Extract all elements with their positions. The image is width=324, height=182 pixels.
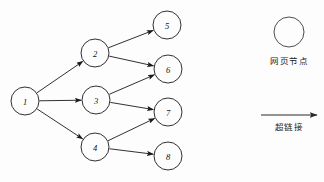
edge-4-to-7 <box>108 118 155 140</box>
diagram-canvas: 12345678 网页节点 超链接 <box>0 0 324 182</box>
node-3[interactable]: 3 <box>82 86 110 114</box>
legend-node-label: 网页节点 <box>270 56 308 66</box>
node-label-3: 3 <box>93 96 98 106</box>
legend-node-symbol: 网页节点 <box>270 17 308 66</box>
edge-4-to-8 <box>109 149 153 154</box>
edge-2-to-6 <box>109 56 153 66</box>
legend-edge-symbol: 超链接 <box>261 115 317 132</box>
nodes-layer: 12345678 <box>11 11 182 170</box>
legend-hyperlink-label: 超链接 <box>275 122 304 132</box>
node-label-5: 5 <box>165 21 169 31</box>
edge-1-to-2 <box>37 61 83 92</box>
graph-svg: 12345678 网页节点 超链接 <box>0 0 324 182</box>
node-6[interactable]: 6 <box>154 55 182 83</box>
edge-1-to-4 <box>37 109 83 139</box>
node-2[interactable]: 2 <box>81 39 109 67</box>
node-8[interactable]: 8 <box>154 142 182 170</box>
node-1[interactable]: 1 <box>11 87 39 115</box>
node-4[interactable]: 4 <box>81 133 109 161</box>
node-label-1: 1 <box>23 97 27 107</box>
edge-3-to-6 <box>109 75 154 94</box>
edge-1-to-3 <box>39 100 81 101</box>
node-7[interactable]: 7 <box>154 98 182 126</box>
edge-3-to-7 <box>110 102 153 109</box>
legend-node-circle <box>274 17 304 47</box>
edge-2-to-5 <box>109 30 154 47</box>
node-5[interactable]: 5 <box>153 11 181 39</box>
